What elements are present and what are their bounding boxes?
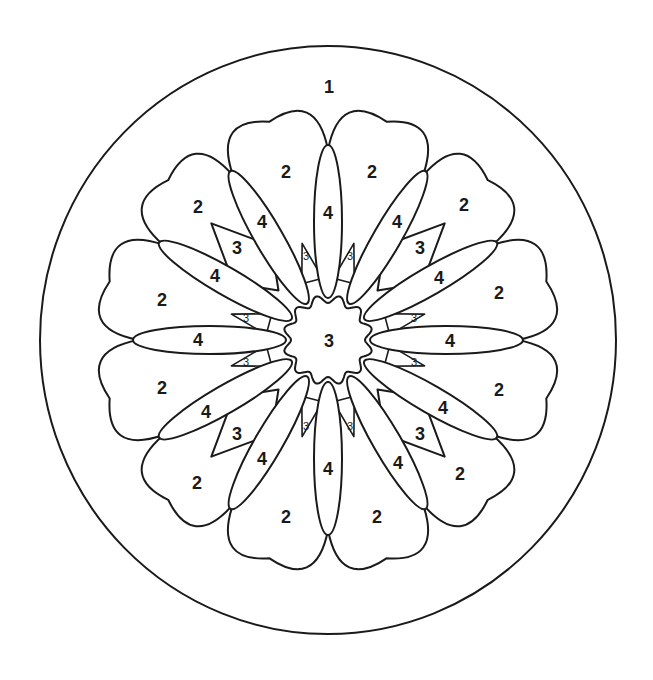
label-region-3-small: 3 (243, 312, 249, 324)
label-region-4: 4 (392, 212, 402, 232)
label-region-3: 3 (415, 424, 425, 444)
label-region-3: 3 (232, 238, 242, 258)
label-region-2: 2 (367, 162, 377, 182)
label-region-4: 4 (257, 449, 267, 469)
label-region-2: 2 (372, 507, 382, 527)
label-region-3: 3 (415, 238, 425, 258)
label-region-4: 4 (323, 459, 333, 479)
label-region-2: 2 (459, 195, 469, 215)
label-region-3-small: 3 (243, 356, 249, 368)
label-region-2: 2 (494, 283, 504, 303)
petal[interactable] (133, 326, 286, 354)
label-region-3-small: 3 (411, 356, 417, 368)
label-region-4: 4 (257, 212, 267, 232)
label-region-4: 4 (393, 453, 403, 473)
label-region-2: 2 (455, 464, 465, 484)
label-region-2: 2 (281, 507, 291, 527)
mandala-canvas: 12222222222224444444444443333333333333 (0, 0, 653, 680)
label-region-2: 2 (157, 290, 167, 310)
label-region-3: 3 (324, 331, 334, 351)
label-region-4: 4 (434, 268, 444, 288)
label-region-3-small: 3 (347, 420, 353, 432)
label-region-4: 4 (445, 331, 455, 351)
label-region-1: 1 (324, 77, 334, 97)
label-region-3: 3 (232, 424, 242, 444)
label-region-2: 2 (281, 162, 291, 182)
label-region-3-small: 3 (411, 312, 417, 324)
label-region-3-small: 3 (303, 250, 309, 262)
label-region-2: 2 (494, 380, 504, 400)
label-region-4: 4 (438, 398, 448, 418)
label-region-4: 4 (210, 266, 220, 286)
label-region-4: 4 (193, 330, 203, 350)
label-region-2: 2 (192, 473, 202, 493)
label-region-4: 4 (201, 402, 211, 422)
label-region-2: 2 (193, 197, 203, 217)
label-region-4: 4 (323, 203, 333, 223)
label-region-2: 2 (157, 378, 167, 398)
label-region-3-small: 3 (303, 420, 309, 432)
label-region-3-small: 3 (347, 250, 353, 262)
